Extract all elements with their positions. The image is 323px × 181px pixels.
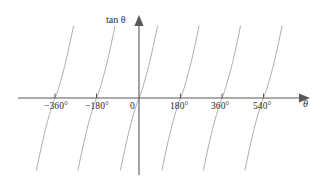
x-axis-label: θ [303, 98, 308, 109]
tangent-function-figure: tan θ θ −360° −180° 0 180° 360° 540° [0, 0, 323, 181]
plot-canvas [0, 0, 323, 181]
y-axis-arrowhead [134, 15, 143, 26]
x-axis-ticks [55, 94, 264, 99]
y-axis-label: tan θ [106, 14, 126, 25]
xtick-label-540: 540° [253, 101, 271, 111]
xtick-label--180: −180° [85, 101, 109, 111]
xtick-label-360: 360° [211, 101, 229, 111]
xtick-label--360: −360° [44, 101, 68, 111]
y-axis-label-prefix: tan θ [106, 14, 126, 25]
xtick-label-180: 180° [170, 101, 188, 111]
xtick-label-0: 0 [130, 101, 135, 111]
